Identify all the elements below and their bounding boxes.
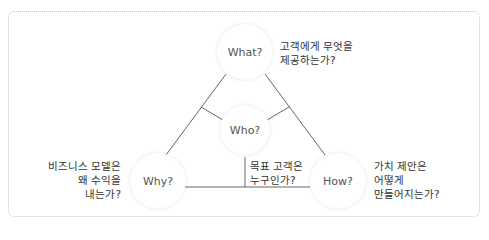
node-who-label: Who? bbox=[230, 124, 260, 137]
node-why: Why? bbox=[130, 153, 186, 209]
why-description: 비즈니스 모델은 왜 수익을 내는가? bbox=[40, 159, 121, 201]
edge-who-right bbox=[267, 107, 289, 120]
node-what: What? bbox=[217, 24, 273, 80]
node-how: How? bbox=[310, 153, 366, 209]
who-description: 목표 고객은 누구인가? bbox=[250, 159, 303, 187]
node-who: Who? bbox=[220, 105, 270, 155]
node-why-label: Why? bbox=[143, 175, 173, 188]
node-how-label: How? bbox=[323, 175, 353, 188]
edge-who-left bbox=[201, 107, 223, 120]
node-what-label: What? bbox=[228, 46, 263, 59]
what-description: 고객에게 무엇을 제공하는가? bbox=[280, 39, 353, 67]
how-description: 가치 제안은 어떻게 만들어지는가? bbox=[374, 159, 440, 201]
edge-what-why bbox=[166, 74, 226, 155]
edge-what-how bbox=[265, 74, 325, 155]
